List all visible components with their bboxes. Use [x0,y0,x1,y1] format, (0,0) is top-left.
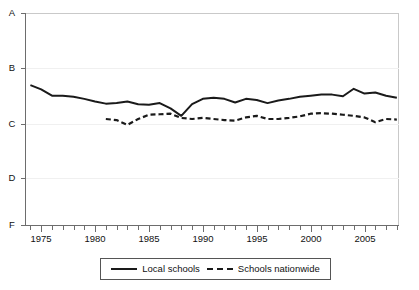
x-axis-minor-tick [30,226,31,230]
x-axis-minor-tick [138,226,139,230]
y-axis-line [25,13,26,226]
dashed-line-swatch-icon [207,268,233,270]
x-axis-tick-label: 1995 [237,233,277,244]
x-axis-minor-tick [289,226,290,230]
x-axis-major-tick [41,226,42,232]
legend-entry-schools-nationwide: Schools nationwide [207,264,320,274]
x-axis-tick-label: 2005 [345,233,385,244]
x-axis-minor-tick [246,226,247,230]
x-axis-minor-tick [52,226,53,230]
x-axis-minor-tick [192,226,193,230]
x-axis-major-tick [257,226,258,232]
gridline [26,68,399,69]
x-axis-tick-label: 1990 [183,233,223,244]
x-axis-minor-tick [117,226,118,230]
x-axis-minor-tick [354,226,355,230]
x-axis-minor-tick [224,226,225,230]
x-axis-major-tick [311,226,312,232]
grade-trend-chart: ABCDF 1975198019851990199520002005 Local… [0,0,419,290]
y-axis-tick-label: A [2,8,22,18]
legend-entry-local-schools: Local schools [111,264,200,274]
x-axis-minor-tick [214,226,215,230]
x-axis-minor-tick [386,226,387,230]
y-axis-tick-label: D [2,173,22,183]
x-axis-minor-tick [332,226,333,230]
x-axis-major-tick [365,226,366,232]
x-axis-minor-tick [127,226,128,230]
x-axis-major-tick [149,226,150,232]
x-axis-minor-tick [106,226,107,230]
x-axis-minor-tick [278,226,279,230]
x-axis-minor-tick [171,226,172,230]
y-axis-tick-mark [21,124,25,125]
x-axis-minor-tick [397,226,398,230]
x-axis-major-tick [203,226,204,232]
x-axis-tick-label: 1985 [129,233,169,244]
x-axis-minor-tick [235,226,236,230]
solid-line-swatch-icon [111,268,137,270]
x-axis-tick-label: 2000 [291,233,331,244]
x-axis-minor-tick [321,226,322,230]
y-axis-tick-mark [21,68,25,69]
y-axis-tick-label: F [2,220,22,230]
x-axis-tick-label: 1980 [75,233,115,244]
chart-legend: Local schools Schools nationwide [100,258,331,280]
y-axis-tick-label: C [2,119,22,129]
gridline [26,124,399,125]
legend-label-local-schools: Local schools [142,264,200,274]
y-axis-tick-label: B [2,63,22,73]
y-axis-tick-mark [21,13,25,14]
y-axis-tick-mark [21,178,25,179]
legend-label-schools-nationwide: Schools nationwide [238,264,320,274]
x-axis-minor-tick [300,226,301,230]
x-axis-minor-tick [375,226,376,230]
x-axis-minor-tick [268,226,269,230]
x-axis-minor-tick [343,226,344,230]
plot-area [25,13,399,225]
gridline [26,178,399,179]
x-axis-minor-tick [181,226,182,230]
x-axis-minor-tick [160,226,161,230]
x-axis-tick-label: 1975 [21,233,61,244]
x-axis-major-tick [95,226,96,232]
x-axis-minor-tick [63,226,64,230]
x-axis-minor-tick [84,226,85,230]
x-axis-minor-tick [74,226,75,230]
